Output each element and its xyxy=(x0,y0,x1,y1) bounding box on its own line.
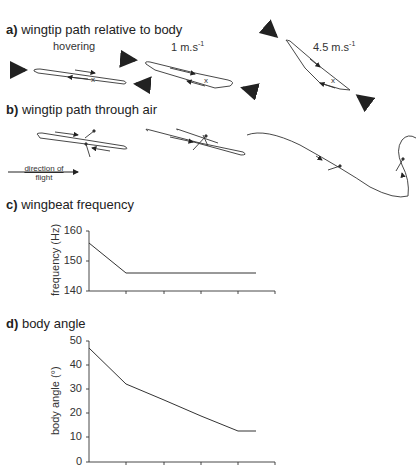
chart-d-line xyxy=(89,348,256,431)
svg-text:x: x xyxy=(91,75,95,84)
chart-d-axes xyxy=(86,341,275,465)
body-arrow-icon xyxy=(136,84,148,85)
body-arrow-icon xyxy=(243,88,254,91)
wingtip-loop-1ms: x xyxy=(146,62,233,88)
wingtip-loop-hovering: x xyxy=(34,69,126,84)
air-path-1ms xyxy=(146,129,245,155)
chart-c-line xyxy=(89,243,256,273)
wingtip-loop-4-5ms: x xyxy=(286,40,350,90)
body-arrow-icon xyxy=(358,96,366,102)
chart-c-axes xyxy=(86,231,275,294)
body-arrow-icon xyxy=(123,59,135,60)
air-path-hovering xyxy=(37,130,127,157)
air-path-4-5ms xyxy=(247,133,416,197)
figure-graphics: x x x xyxy=(0,0,416,466)
svg-text:x: x xyxy=(204,76,208,85)
body-arrow-icon xyxy=(268,29,276,36)
svg-text:x: x xyxy=(331,76,335,85)
